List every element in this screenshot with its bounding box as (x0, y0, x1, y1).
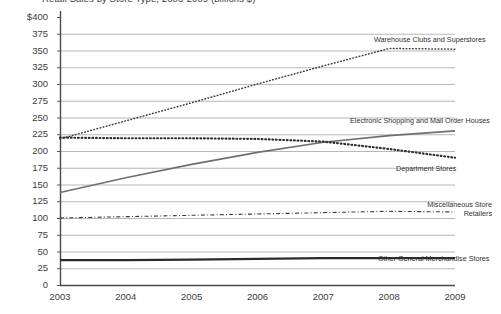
series-label: Miscellaneous Store Retailers (400, 201, 492, 218)
series-label: Other General Merchandise Stores (378, 255, 489, 264)
data-series-line (60, 131, 455, 193)
series-label: Warehouse Clubs and Superstores (374, 36, 486, 45)
data-series-line (60, 138, 455, 158)
plot-area (0, 0, 501, 314)
series-label: Department Stores (396, 165, 456, 174)
chart-container: Retail Sales by Store Type, 2003-2009 (b… (0, 0, 501, 314)
series-label: Electronic Shopping and Mail Order House… (350, 117, 490, 126)
data-series-line (60, 211, 455, 218)
